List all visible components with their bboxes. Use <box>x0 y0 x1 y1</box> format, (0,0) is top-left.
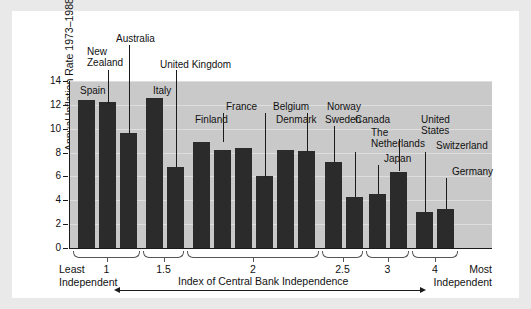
arrow-right-icon <box>420 287 426 293</box>
bar-australia <box>120 133 137 248</box>
x-axis-title: Index of Central Bank Independence <box>178 275 348 287</box>
independence-arrow <box>120 290 420 291</box>
callout-united-kingdom: United Kingdom <box>160 60 231 71</box>
most-independent-note: Most Independent <box>427 263 492 288</box>
group-tick-label-2: 2 <box>233 263 273 275</box>
y-tick-label: 8 <box>32 148 61 158</box>
y-tick-mark <box>63 200 68 201</box>
callout-australia: Australia <box>116 34 155 45</box>
group-bracket-stem <box>435 258 436 262</box>
leader-line-united-kingdom <box>176 70 177 167</box>
callout-denmark: Denmark <box>276 115 317 126</box>
group-bracket-4 <box>412 251 458 258</box>
bar-belgium <box>256 176 273 248</box>
leader-line-united-states <box>399 139 400 171</box>
y-tick-mark <box>63 153 68 154</box>
bar-united-states <box>390 172 407 248</box>
y-tick-label: 2 <box>32 219 61 229</box>
bar-united-kingdom <box>167 167 184 248</box>
group-bracket-1 <box>73 251 140 258</box>
bar-the-netherlands <box>346 197 363 248</box>
leader-line-australia <box>129 45 130 134</box>
arrow-left-icon <box>114 287 120 293</box>
y-tick-mark <box>63 81 68 82</box>
callout-france: France <box>226 102 257 113</box>
callout-germany: Germany <box>452 167 493 178</box>
bar-norway <box>298 151 315 248</box>
callout-canada: Canada <box>355 115 390 126</box>
y-tick-label: 6 <box>32 171 61 181</box>
y-tick-label: 10 <box>32 124 61 134</box>
group-bracket-stem <box>107 258 108 262</box>
group-bracket-3 <box>366 251 409 258</box>
y-tick-label: 12 <box>32 100 61 110</box>
group-tick-label-1-5: 1.5 <box>144 263 184 275</box>
y-tick-label: 0 <box>32 243 61 253</box>
leader-line-switzerland <box>425 152 426 212</box>
callout-new-zealand: New Zealand <box>87 47 123 68</box>
leader-line-new-zealand <box>108 70 109 104</box>
bar-new-zealand <box>99 102 116 248</box>
group-tick-label-3: 3 <box>368 263 408 275</box>
bar-france <box>214 150 231 248</box>
y-tick-mark <box>63 129 68 130</box>
group-bracket-2-5 <box>322 251 363 258</box>
callout-switzerland: Switzerland <box>436 141 488 152</box>
bar-canada <box>325 162 342 248</box>
y-tick-mark <box>63 224 68 225</box>
group-bracket-stem <box>253 258 254 262</box>
y-tick-label: 4 <box>32 195 61 205</box>
y-tick-mark <box>63 248 68 249</box>
y-tick-mark <box>63 176 68 177</box>
y-tick-label: 14 <box>32 76 61 86</box>
least-independent-note: Least Independent <box>59 263 117 288</box>
callout-spain: Spain <box>80 86 106 97</box>
group-tick-label-2-5: 2.5 <box>323 263 363 275</box>
group-bracket-stem <box>164 258 165 262</box>
leader-line-germany <box>446 178 447 209</box>
bar-italy <box>146 98 163 248</box>
group-bracket-2 <box>187 251 319 258</box>
bar-germany <box>437 209 454 248</box>
bar-spain <box>78 100 95 248</box>
callout-united-states: United States <box>421 115 450 136</box>
screenshot-root: Annual Inflation Rate 1973–1988 (%) 0246… <box>0 0 531 309</box>
leader-line-france <box>223 113 224 142</box>
gridline <box>70 81 492 82</box>
y-tick-mark <box>63 105 68 106</box>
x-axis-line <box>69 248 492 249</box>
bar-finland <box>193 142 210 248</box>
bar-japan <box>369 194 386 248</box>
bar-switzerland <box>416 212 433 248</box>
bar-sweden <box>277 150 294 248</box>
figure-card: Annual Inflation Rate 1973–1988 (%) 0246… <box>12 11 519 298</box>
leader-line-belgium <box>265 113 266 177</box>
callout-italy: Italy <box>153 86 171 97</box>
leader-line-canada <box>334 126 335 162</box>
callout-norway: Norway <box>327 102 361 113</box>
group-bracket-stem <box>388 258 389 262</box>
leader-line-norway <box>307 113 308 152</box>
leader-line-netherlands <box>355 152 356 197</box>
callout-belgium: Belgium <box>273 102 309 113</box>
leader-line-japan <box>378 165 379 194</box>
group-bracket-stem <box>343 258 344 262</box>
bar-denmark <box>235 148 252 248</box>
group-bracket-1-5 <box>143 251 184 258</box>
